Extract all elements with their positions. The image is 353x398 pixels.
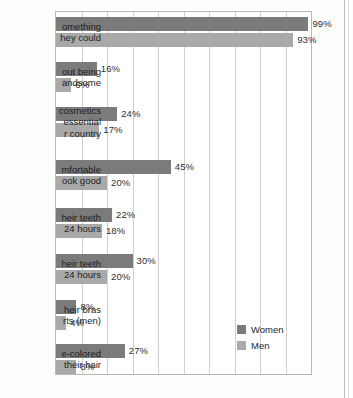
- chart-legend: WomenMen: [237, 323, 284, 355]
- category-label-line: cosmetics: [59, 105, 101, 117]
- gridline: [235, 12, 236, 374]
- bar-value-label: 27%: [129, 344, 148, 358]
- category-label-line: rts (men): [63, 315, 101, 327]
- category-label-line: heir bras: [63, 304, 101, 316]
- page-edge-line: [344, 0, 345, 398]
- bar-value-label: 30%: [137, 254, 156, 268]
- page-edge-line-secondary: [348, 0, 349, 398]
- bar-value-label: 93%: [297, 33, 316, 47]
- plot-area: 99%93%16%6%24%17%45%20%22%18%30%20%8%4%2…: [55, 11, 312, 375]
- category-label-line: omething: [60, 21, 101, 33]
- category-label-6: heir brasrts (men): [63, 304, 101, 327]
- bar-value-label: 22%: [116, 208, 135, 222]
- category-label-line: 24 hours: [61, 223, 101, 235]
- category-label-line: hey could: [60, 32, 101, 44]
- category-label-line: r country: [59, 128, 101, 140]
- category-axis-labels: omethinghey couldout beingandsomecosmeti…: [0, 12, 105, 376]
- bar-value-label: 20%: [111, 176, 130, 190]
- category-label-line: heir teeth: [61, 212, 101, 224]
- category-label-7: e-coloredtheir hair: [61, 348, 101, 371]
- category-label-line: their hair: [61, 359, 101, 371]
- gridline: [209, 12, 210, 374]
- gridline: [286, 12, 287, 374]
- bar-value-label: 20%: [111, 270, 130, 284]
- category-label-line: ook good: [61, 175, 101, 187]
- legend-label: Men: [251, 339, 269, 352]
- legend-item-women: Women: [237, 323, 284, 336]
- gridline: [133, 12, 134, 374]
- category-label-5: heir teeth24 hours: [61, 258, 101, 281]
- category-label-line: heir teeth: [61, 258, 101, 270]
- bar-value-label: 99%: [312, 17, 331, 31]
- bar-value-label: 17%: [103, 123, 122, 137]
- category-label-line: andsome: [62, 77, 101, 89]
- gridline: [158, 12, 159, 374]
- bar-value-label: 45%: [175, 160, 194, 174]
- legend-swatch-icon: [237, 341, 246, 350]
- bar-chart-figure: 99%93%16%6%24%17%45%20%22%18%30%20%8%4%2…: [0, 0, 353, 398]
- bar-value-label: 24%: [121, 107, 140, 121]
- gridline: [260, 12, 261, 374]
- category-label-2: cosmeticsessentialr country: [59, 105, 101, 140]
- category-label-line: essential: [59, 116, 101, 128]
- category-label-4: heir teeth24 hours: [61, 212, 101, 235]
- category-label-line: out being: [62, 66, 101, 78]
- category-label-line: mfortable: [61, 164, 101, 176]
- category-label-line: 24 hours: [61, 269, 101, 281]
- bar-value-label: 18%: [106, 224, 125, 238]
- category-label-3: mfortableook good: [61, 164, 101, 187]
- category-label-line: e-colored: [61, 348, 101, 360]
- legend-swatch-icon: [237, 325, 246, 334]
- category-label-1: out beingandsome: [62, 66, 101, 89]
- gridline: [184, 12, 185, 374]
- legend-label: Women: [251, 323, 284, 336]
- category-label-0: omethinghey could: [60, 21, 101, 44]
- legend-item-men: Men: [237, 339, 284, 352]
